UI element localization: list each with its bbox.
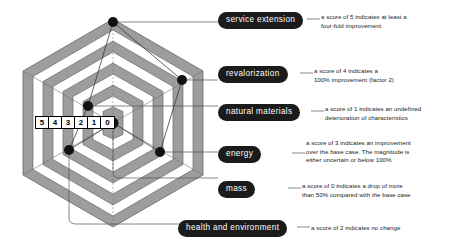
- scale-cell-3: 3: [62, 117, 75, 128]
- label-health-and-environment[interactable]: health and environment: [178, 220, 287, 237]
- label-natural-materials[interactable]: natural materials: [218, 104, 300, 121]
- scale-cell-5: 5: [36, 117, 49, 128]
- point-health-and-environment[interactable]: [64, 145, 74, 155]
- description-score-0: a score of 0 indicates a drop of more th…: [302, 182, 411, 199]
- label-mass[interactable]: mass: [218, 181, 255, 198]
- scale-cell-2: 2: [75, 117, 88, 128]
- point-service-extension[interactable]: [108, 17, 118, 27]
- description-score-1: a score of 1 indicates an undefined dete…: [325, 105, 421, 122]
- label-service-extension[interactable]: service extension: [218, 12, 303, 29]
- point-energy[interactable]: [155, 147, 165, 157]
- description-score-2: a score of 2 indicates no change: [311, 224, 400, 233]
- scale-cell-0: 0: [101, 117, 114, 128]
- description-score-3: a score of 3 indicates an improvement ov…: [306, 139, 411, 165]
- scale-legend: 5 4 3 2 1 0: [35, 116, 115, 129]
- scale-cell-4: 4: [49, 117, 62, 128]
- scale-cell-1: 1: [88, 117, 101, 128]
- diagram-canvas: 5 4 3 2 1 0 service extension revaloriza…: [0, 0, 452, 242]
- point-revalorization[interactable]: [177, 75, 187, 85]
- description-score-5: a score of 5 indicates at least a four-f…: [321, 13, 407, 30]
- label-revalorization[interactable]: revalorization: [218, 66, 288, 83]
- description-score-4: a score of 4 indicates a 100% improvemen…: [314, 67, 394, 84]
- point-natural-materials[interactable]: [83, 101, 93, 111]
- label-energy[interactable]: energy: [218, 146, 261, 163]
